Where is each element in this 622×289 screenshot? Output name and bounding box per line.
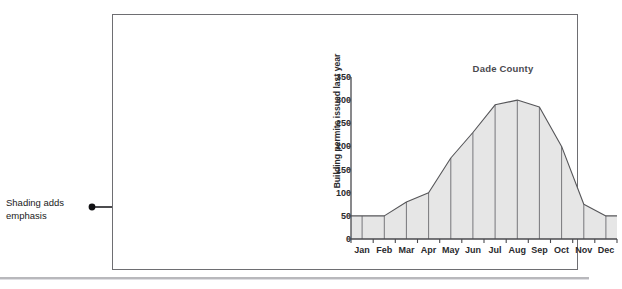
figure-frame: Dade County Building permits issued last… <box>112 14 578 270</box>
annotation-line-1: Shading adds <box>6 196 86 209</box>
x-tick-label: Oct <box>554 245 569 255</box>
annotation-line-2: emphasis <box>6 209 86 222</box>
plot-area <box>313 63 622 263</box>
x-tick-label: Feb <box>376 245 392 255</box>
x-tick-label: Aug <box>509 245 527 255</box>
x-tick-label: Jun <box>465 245 481 255</box>
annotation-text: Shading adds emphasis <box>6 196 86 222</box>
x-axis-tick-labels: JanFebMarAprMayJunJulAugSepOctNovDec <box>313 245 622 259</box>
page-edge-shadow-light <box>0 279 589 280</box>
area-chart: Dade County Building permits issued last… <box>313 63 622 263</box>
x-tick-label: Apr <box>421 245 437 255</box>
x-tick-label: May <box>442 245 460 255</box>
x-tick-label: Dec <box>598 245 615 255</box>
x-tick-label: Sep <box>531 245 548 255</box>
x-tick-label: Nov <box>575 245 592 255</box>
x-tick-label: Mar <box>398 245 414 255</box>
area-fill <box>351 100 617 239</box>
x-tick-label: Jan <box>354 245 370 255</box>
x-tick-label: Jul <box>489 245 502 255</box>
